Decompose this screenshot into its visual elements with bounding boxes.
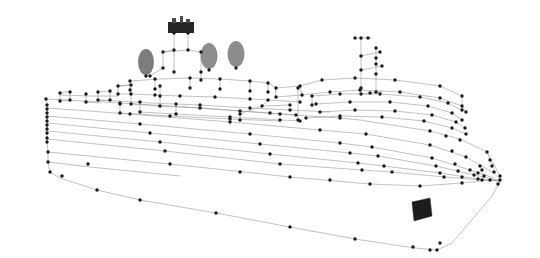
model-viewport: 3D wireframe point-cloud reconstruction … xyxy=(0,0,540,258)
funnel-aft-icon xyxy=(228,41,245,67)
ship-wireframe-svg xyxy=(0,0,540,258)
funnel-mid-icon xyxy=(201,43,218,69)
funnel-forward-icon xyxy=(138,49,154,75)
hull-marking-icon xyxy=(412,198,432,221)
funnel-shapes xyxy=(138,41,245,75)
bridge-block-icon xyxy=(168,16,194,33)
hull-wireframe xyxy=(46,99,500,250)
mast-wireframe xyxy=(150,33,382,94)
vertex-points xyxy=(44,31,501,251)
